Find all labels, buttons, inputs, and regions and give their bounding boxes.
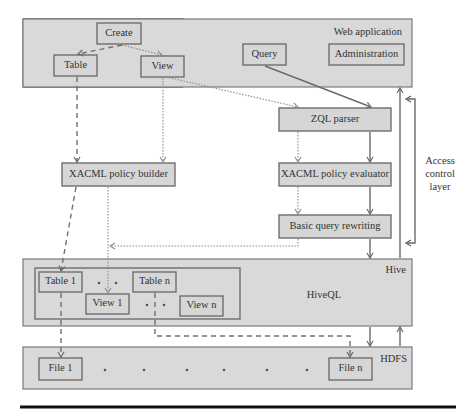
svg-text:File n: File n	[338, 362, 363, 373]
query-node: Query	[243, 44, 286, 65]
architecture-diagram: Web application Hive HiveQL HDFS Create …	[0, 0, 474, 413]
hive-label: Hive	[386, 264, 407, 275]
edge-rewriting-builder-line	[110, 239, 298, 246]
hdfs-label: HDFS	[380, 353, 407, 364]
file-n-node: File n	[329, 358, 372, 380]
xacml-policy-builder-node: XACML policy builder	[62, 163, 175, 186]
svg-text:XACML policy evaluator: XACML policy evaluator	[281, 168, 390, 179]
access-control-bracket	[407, 99, 415, 243]
web-application-label: Web application	[334, 26, 403, 37]
edge-builder-table1	[61, 187, 76, 271]
administration-node: Administration	[329, 44, 404, 65]
table-n-node: Table n	[133, 272, 176, 292]
svg-text:control: control	[425, 168, 455, 179]
basic-query-rewriting-node: Basic query rewriting	[279, 215, 391, 238]
file-1-node: File 1	[39, 358, 82, 380]
svg-text:Table n: Table n	[139, 275, 171, 286]
svg-text:File 1: File 1	[48, 362, 72, 373]
svg-text:Table 1: Table 1	[45, 275, 76, 286]
hiveql-label: HiveQL	[307, 289, 341, 300]
svg-text:View 1: View 1	[93, 297, 123, 308]
svg-text:layer: layer	[430, 181, 451, 192]
svg-text:Access: Access	[425, 155, 455, 166]
svg-text:ZQL parser: ZQL parser	[311, 113, 360, 124]
view-n-node: View n	[180, 296, 223, 316]
access-control-layer-label: Access control layer	[425, 155, 455, 192]
svg-text:Query: Query	[251, 48, 278, 59]
svg-text:View: View	[151, 60, 174, 71]
create-node: Create	[97, 23, 141, 44]
svg-text:Create: Create	[105, 27, 133, 38]
table-node: Table	[54, 55, 97, 76]
xacml-policy-evaluator-node: XACML policy evaluator	[279, 163, 391, 186]
zql-parser-node: ZQL parser	[279, 108, 391, 131]
svg-text:Basic query rewriting: Basic query rewriting	[290, 220, 382, 231]
view-node: View	[141, 56, 184, 77]
svg-text:View n: View n	[187, 299, 218, 310]
svg-text:XACML policy builder: XACML policy builder	[69, 168, 168, 179]
svg-text:Administration: Administration	[335, 48, 399, 59]
view-1-node: View 1	[86, 294, 129, 314]
svg-text:Table: Table	[64, 59, 88, 70]
table-1-node: Table 1	[39, 272, 82, 292]
